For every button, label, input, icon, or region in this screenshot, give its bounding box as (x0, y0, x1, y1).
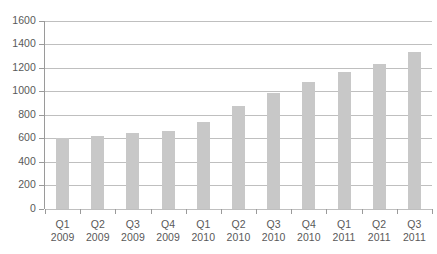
x-category-quarter: Q4 (291, 218, 326, 231)
y-tick-mark (39, 68, 44, 69)
x-category-year: 2011 (397, 231, 432, 244)
x-category-label: Q32011 (397, 218, 432, 244)
x-category-quarter: Q2 (362, 218, 397, 231)
bar[interactable] (338, 72, 351, 208)
bar[interactable] (126, 133, 139, 208)
x-category-quarter: Q3 (115, 218, 150, 231)
x-category-quarter: Q3 (256, 218, 291, 231)
x-category-year: 2011 (362, 231, 397, 244)
y-tick-mark (39, 209, 44, 210)
y-tick-label: 1600 (0, 15, 36, 26)
x-category-year: 2009 (151, 231, 186, 244)
x-category-quarter: Q1 (186, 218, 221, 231)
x-tick-mark (397, 209, 398, 214)
y-tick-mark (39, 21, 44, 22)
x-category-quarter: Q1 (326, 218, 361, 231)
x-tick-mark (80, 209, 81, 214)
y-tick-label: 1200 (0, 62, 36, 73)
bar[interactable] (302, 82, 315, 209)
x-category-year: 2009 (45, 231, 80, 244)
plot-area (45, 21, 432, 209)
x-category-label: Q32009 (115, 218, 150, 244)
x-category-year: 2010 (221, 231, 256, 244)
y-tick-mark (39, 91, 44, 92)
bar[interactable] (197, 122, 210, 208)
y-tick-label: 800 (0, 109, 36, 120)
x-category-label: Q22009 (80, 218, 115, 244)
x-category-year: 2009 (115, 231, 150, 244)
x-category-label: Q42010 (291, 218, 326, 244)
x-tick-mark (362, 209, 363, 214)
y-tick-mark (39, 115, 44, 116)
x-tick-mark (326, 209, 327, 214)
y-tick-mark (39, 162, 44, 163)
bar-chart: 02004006008001000120014001600 Q12009Q220… (0, 0, 437, 254)
gridline (45, 209, 432, 210)
y-tick-label: 1000 (0, 85, 36, 96)
x-category-quarter: Q3 (397, 218, 432, 231)
x-category-quarter: Q1 (45, 218, 80, 231)
x-category-label: Q32010 (256, 218, 291, 244)
bar[interactable] (408, 52, 421, 208)
x-tick-mark (45, 209, 46, 214)
bar[interactable] (373, 64, 386, 209)
y-tick-mark (39, 138, 44, 139)
y-tick-label: 1400 (0, 38, 36, 49)
x-category-year: 2010 (291, 231, 326, 244)
x-category-quarter: Q2 (80, 218, 115, 231)
bar[interactable] (232, 106, 245, 209)
x-tick-mark (221, 209, 222, 214)
y-tick-mark (39, 44, 44, 45)
x-category-quarter: Q4 (151, 218, 186, 231)
y-tick-label: 200 (0, 179, 36, 190)
y-tick-mark (39, 185, 44, 186)
x-category-label: Q12009 (45, 218, 80, 244)
x-category-label: Q12011 (326, 218, 361, 244)
x-category-year: 2009 (80, 231, 115, 244)
x-category-label: Q12010 (186, 218, 221, 244)
x-tick-mark (186, 209, 187, 214)
x-tick-mark (151, 209, 152, 214)
x-category-quarter: Q2 (221, 218, 256, 231)
x-category-year: 2011 (326, 231, 361, 244)
x-tick-mark (432, 209, 433, 214)
x-tick-mark (291, 209, 292, 214)
x-category-year: 2010 (256, 231, 291, 244)
y-tick-label: 400 (0, 156, 36, 167)
x-category-label: Q42009 (151, 218, 186, 244)
y-tick-label: 600 (0, 132, 36, 143)
bar[interactable] (162, 131, 175, 209)
y-tick-label: 0 (0, 203, 36, 214)
x-category-year: 2010 (186, 231, 221, 244)
x-tick-mark (115, 209, 116, 214)
x-category-label: Q22010 (221, 218, 256, 244)
bar[interactable] (91, 136, 104, 209)
x-tick-mark (256, 209, 257, 214)
bar[interactable] (267, 93, 280, 209)
bar[interactable] (56, 138, 69, 209)
x-category-label: Q22011 (362, 218, 397, 244)
